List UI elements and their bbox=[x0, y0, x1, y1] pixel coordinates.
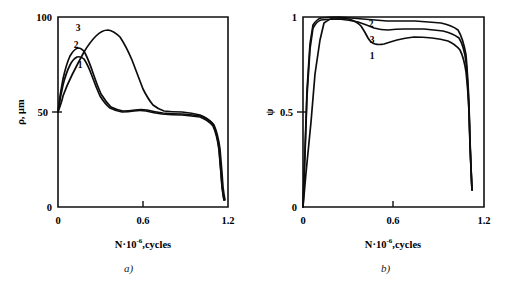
x-tick-label-12-a: 1.2 bbox=[221, 215, 234, 226]
curve-2-b bbox=[303, 17, 472, 207]
curve-label-1-b: 1 bbox=[370, 51, 375, 61]
x-axis-title-main-a: N·10 bbox=[115, 239, 137, 250]
plot-frame-b bbox=[303, 17, 484, 207]
curve-1-b bbox=[303, 18, 472, 207]
y-axis-title-a: ρ, μm bbox=[15, 99, 26, 125]
curve-label-2-a: 2 bbox=[74, 40, 79, 50]
chart-panel-b: 1 0.5 0 0 0.6 1.2 1 2 3 ψ N·10-6,cycles … bbox=[257, 0, 514, 293]
panel-caption-b: b) bbox=[257, 262, 514, 274]
x-tick-label-0-b: 0 bbox=[300, 215, 305, 226]
curve-3-a bbox=[58, 48, 225, 200]
curves-b bbox=[303, 17, 472, 207]
chart-a-svg: 100 50 0 0 0.6 1.2 1 2 3 ρ, μm N·10-6,cy… bbox=[0, 0, 257, 255]
panel-caption-a: a) bbox=[0, 262, 257, 274]
x-tick-label-06-a: 0.6 bbox=[136, 215, 149, 226]
chart-b-svg: 1 0.5 0 0 0.6 1.2 1 2 3 ψ N·10-6,cycles bbox=[257, 0, 515, 255]
curve-label-3-a: 3 bbox=[76, 23, 81, 33]
x-tick-label-0-a: 0 bbox=[55, 215, 60, 226]
curve-label-2-b: 2 bbox=[369, 19, 374, 29]
curve-3-b bbox=[303, 19, 472, 207]
x-axis-title-a: N·10-6,cycles bbox=[115, 237, 171, 250]
y-tick-label-1-b: 1 bbox=[292, 12, 297, 23]
x-tick-label-06-b: 0.6 bbox=[386, 215, 399, 226]
x-axis-title-tail-b: ,cycles bbox=[392, 239, 421, 250]
plot-frame-a bbox=[58, 17, 228, 207]
y-tick-label-0-b: 0 bbox=[292, 202, 297, 213]
x-axis-title-b: N·10-6,cycles bbox=[365, 237, 421, 250]
chart-panel-a: 100 50 0 0 0.6 1.2 1 2 3 ρ, μm N·10-6,cy… bbox=[0, 0, 257, 293]
y-axis-title-b: ψ bbox=[264, 108, 275, 116]
curve-label-3-b: 3 bbox=[370, 35, 375, 45]
curve-2-a bbox=[58, 57, 224, 200]
curves-a bbox=[58, 30, 225, 200]
y-tick-label-05-b: 0.5 bbox=[280, 107, 293, 118]
x-tick-label-12-b: 1.2 bbox=[477, 215, 490, 226]
y-tick-label-0-a: 0 bbox=[47, 202, 52, 213]
figure-container: 100 50 0 0 0.6 1.2 1 2 3 ρ, μm N·10-6,cy… bbox=[0, 0, 515, 293]
y-tick-label-50-a: 50 bbox=[38, 107, 49, 118]
x-axis-title-main-b: N·10 bbox=[365, 239, 387, 250]
curve-label-1-a: 1 bbox=[78, 60, 83, 70]
y-tick-label-100-a: 100 bbox=[36, 12, 52, 23]
x-axis-title-tail-a: ,cycles bbox=[142, 239, 171, 250]
